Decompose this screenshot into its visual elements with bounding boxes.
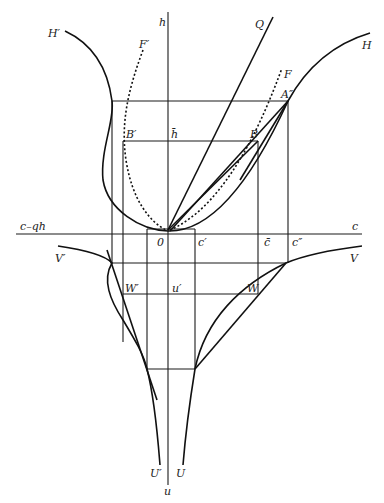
- label-h: H: [361, 39, 372, 52]
- chord-v-bottom: [195, 263, 286, 369]
- label-h-prime: H′: [47, 27, 61, 40]
- label-h-axis: h: [159, 16, 166, 29]
- label-w-prime: W′: [125, 282, 139, 295]
- label-b: B: [249, 128, 258, 141]
- label-a-dprime: A″: [280, 88, 294, 101]
- label-v-prime: V′: [55, 252, 66, 265]
- label-c-dprime: c″: [292, 236, 303, 249]
- label-u-prime: u′: [172, 282, 182, 295]
- q-ray: [168, 17, 273, 230]
- label-h-bar: h̄: [171, 128, 178, 141]
- label-v: V: [350, 252, 359, 265]
- v-prime-curve: [58, 246, 160, 465]
- label-b-prime: B′: [125, 128, 137, 141]
- tangent-at-b: [168, 141, 258, 230]
- construction-diagram: h H′ F′ Q H F A″ B′ h̄ B c–qh c 0 c′ c̄ …: [0, 0, 384, 503]
- label-f: F: [283, 68, 292, 81]
- label-origin: 0: [157, 236, 164, 249]
- label-c-prime: c′: [198, 236, 207, 249]
- label-c: c: [352, 220, 358, 233]
- label-c-minus-qh: c–qh: [20, 220, 46, 233]
- h-prime-curve: [65, 31, 168, 231]
- label-u-curve: U: [176, 467, 186, 480]
- label-w: W: [247, 282, 260, 295]
- label-u-prime-curve: U′: [150, 467, 162, 480]
- label-f-prime: F′: [138, 38, 150, 51]
- label-c-bar: c̄: [264, 236, 271, 249]
- label-u-axis: u: [164, 485, 171, 498]
- chord-v-prime-bottom: [107, 250, 157, 400]
- f-curve: [170, 68, 282, 230]
- label-q: Q: [255, 18, 264, 31]
